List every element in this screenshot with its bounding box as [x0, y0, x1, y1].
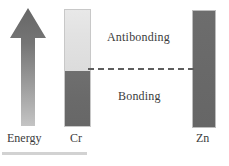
energy-axis-caption: Energy — [7, 131, 41, 146]
cr-antibonding-segment — [65, 10, 90, 71]
energy-diagram-figure: Antibonding Bonding Energy Cr Zn — [0, 0, 229, 166]
fermi-level-dashed-line — [88, 68, 194, 70]
cr-bar — [64, 9, 91, 127]
zn-bar — [192, 10, 216, 128]
cr-bonding-segment — [65, 71, 90, 126]
bonding-region-label: Bonding — [118, 89, 161, 104]
cr-caption: Cr — [70, 131, 82, 146]
zn-caption: Zn — [196, 131, 209, 146]
energy-axis-arrow — [8, 6, 48, 128]
antibonding-region-label: Antibonding — [107, 30, 170, 45]
bottom-rule — [2, 152, 87, 155]
up-arrow-icon — [8, 6, 48, 128]
